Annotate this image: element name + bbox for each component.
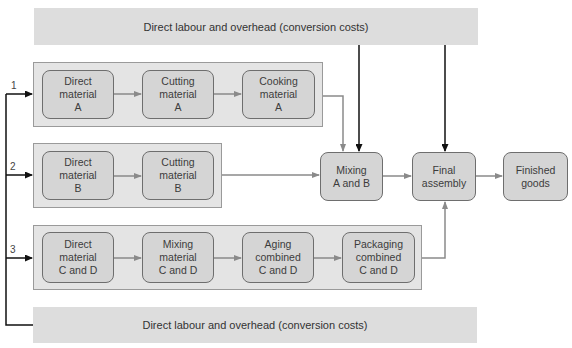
final-assembly-box: Finalassembly (412, 152, 476, 201)
direct-material-a-box: DirectmaterialA (42, 70, 114, 119)
finished-goods-box: Finishedgoods (503, 152, 568, 201)
mixing-material-c-d-box: MixingmaterialC and D (142, 232, 214, 283)
aging-combined-c-d-box: AgingcombinedC and D (242, 232, 314, 283)
process-number-3: 3 (10, 244, 16, 255)
direct-material-b-box: DirectmaterialB (42, 151, 114, 200)
cooking-material-a-box: CookingmaterialA (242, 70, 315, 119)
process-number-1: 1 (11, 80, 17, 91)
direct-material-c-d-box: DirectmaterialC and D (42, 232, 114, 283)
packaging-combined-c-d-box: PackagingcombinedC and D (342, 232, 415, 283)
process-number-2: 2 (10, 161, 16, 172)
cutting-material-b-box: CuttingmaterialB (142, 151, 214, 200)
cutting-material-a-box: CuttingmaterialA (142, 70, 214, 119)
mixing-a-and-b-box: MixingA and B (320, 152, 383, 201)
